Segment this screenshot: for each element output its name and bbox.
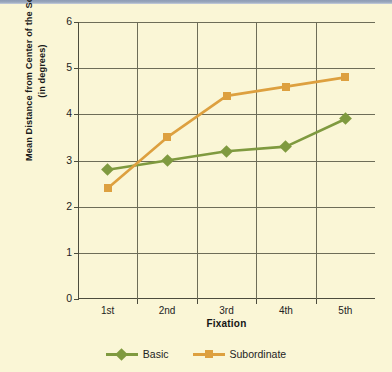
y-tick-label-0: 0 xyxy=(54,292,72,304)
y-tick-label-5: 5 xyxy=(54,61,72,73)
data-point-subordinate-1st xyxy=(104,184,112,192)
x-axis-title: Fixation xyxy=(78,318,375,329)
legend-swatch-basic xyxy=(106,348,138,360)
y-tick-label-6: 6 xyxy=(54,15,72,27)
series-lines xyxy=(78,22,375,299)
legend-swatch-subordinate xyxy=(193,348,225,360)
y-axis-title: Mean Distance from Center of the Scene (… xyxy=(23,0,53,205)
chart-figure: Mean Distance from Center of the Scene (… xyxy=(0,4,392,372)
x-tick-mark-2 xyxy=(197,299,198,304)
y-tick-label-2: 2 xyxy=(54,200,72,212)
y-axis-title-line-2: (in degrees) xyxy=(36,0,49,205)
y-tick-label-3: 3 xyxy=(54,154,72,166)
legend-label-subordinate: Subordinate xyxy=(230,348,287,360)
x-tick-label-4th: 4th xyxy=(256,305,316,316)
data-point-subordinate-3rd xyxy=(223,92,231,100)
legend-label-basic: Basic xyxy=(143,348,169,360)
x-tick-label-3rd: 3rd xyxy=(197,305,257,316)
legend-item-basic[interactable]: Basic xyxy=(106,348,169,360)
y-tick-label-4: 4 xyxy=(54,107,72,119)
x-tick-mark-1 xyxy=(137,299,138,304)
plot-area: 0123456 1st2nd3rd4th5th xyxy=(78,22,375,299)
y-axis-title-line-1: Mean Distance from Center of the Scene xyxy=(23,0,36,205)
y-tick-mark-0 xyxy=(74,299,79,300)
x-tick-label-2nd: 2nd xyxy=(137,305,197,316)
legend-item-subordinate[interactable]: Subordinate xyxy=(193,348,287,360)
data-point-subordinate-5th xyxy=(341,73,349,81)
y-tick-label-1: 1 xyxy=(54,246,72,258)
x-tick-mark-3 xyxy=(256,299,257,304)
data-point-subordinate-2nd xyxy=(163,133,171,141)
data-point-subordinate-4th xyxy=(282,83,290,91)
chart-legend: BasicSubordinate xyxy=(0,348,392,360)
x-tick-label-5th: 5th xyxy=(315,305,375,316)
x-tick-mark-4 xyxy=(316,299,317,304)
x-tick-label-1st: 1st xyxy=(78,305,138,316)
legend-diamond-marker-icon xyxy=(115,348,128,361)
legend-square-marker-icon xyxy=(205,350,213,358)
